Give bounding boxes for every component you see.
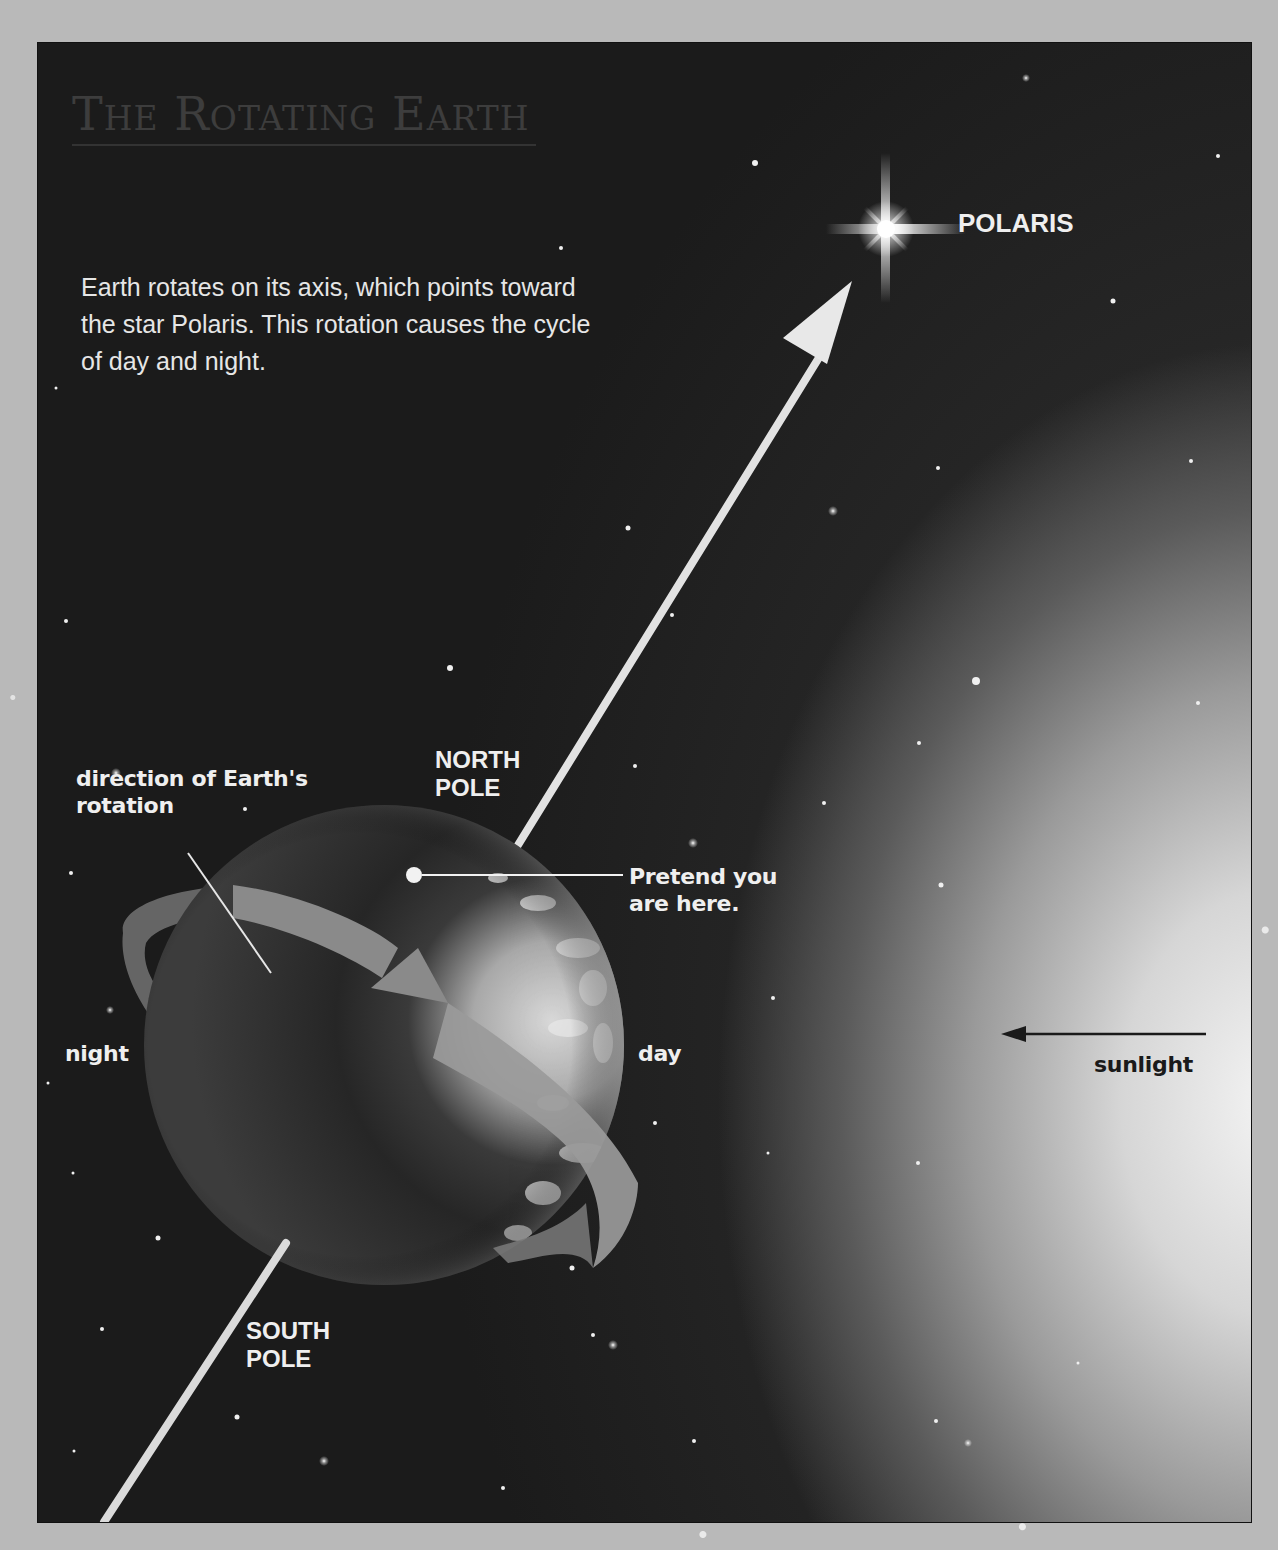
page-title: THE ROTATING EARTH [72, 89, 536, 146]
sunlight-label: sunlight [1094, 1051, 1193, 1078]
title-word-2: ROTATING [174, 87, 376, 141]
south-axis-line [104, 1243, 286, 1522]
earth-globe [144, 805, 624, 1285]
title-word-3: EARTH [392, 87, 529, 141]
sunlight-arrow-icon [1001, 1026, 1206, 1042]
north-pole-label: NORTH POLE [435, 746, 520, 802]
night-label: night [65, 1040, 129, 1067]
day-label: day [638, 1040, 681, 1067]
diagram-panel: THE ROTATING EARTH Earth rotates on its … [37, 42, 1252, 1523]
polaris-label: POLARIS [958, 209, 1074, 237]
south-pole-label: SOUTH POLE [246, 1317, 330, 1373]
polaris-star-icon [826, 153, 966, 303]
rotation-direction-label: direction of Earth's rotation [76, 765, 308, 819]
pretend-you-are-here-label: Pretend you are here. [629, 863, 777, 917]
title-word-1: THE [72, 87, 159, 141]
caption-text: Earth rotates on its axis, which points … [81, 269, 601, 380]
